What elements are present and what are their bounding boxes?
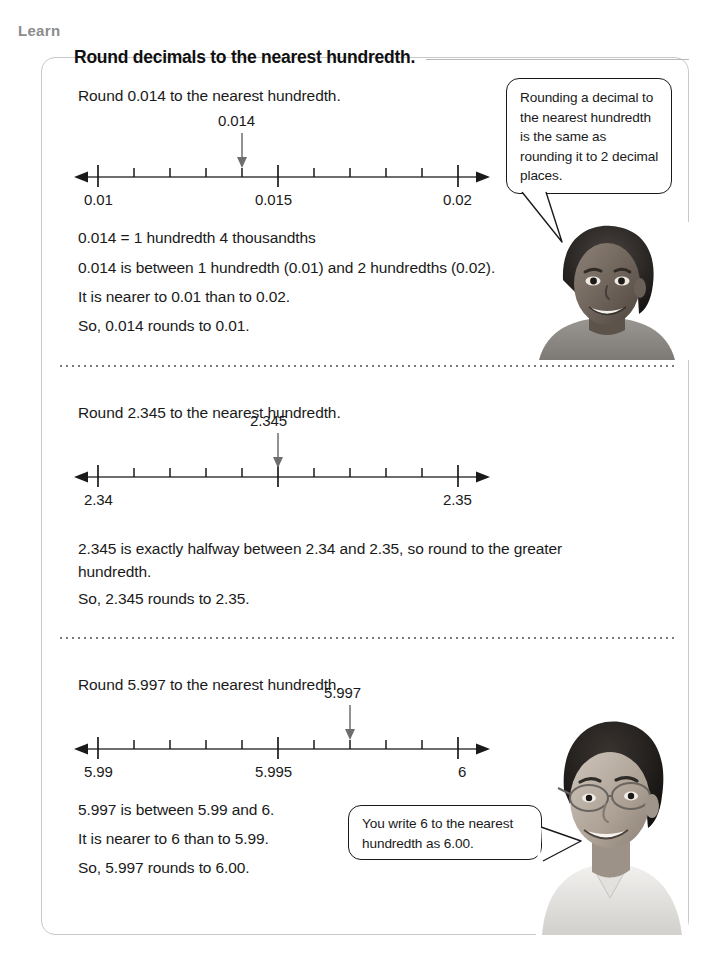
section-3-prompt: Round 5.997 to the nearest hundredth. xyxy=(78,675,341,695)
number-line-3-tick-label-0: 5.99 xyxy=(84,763,113,780)
heading-rule xyxy=(426,59,689,60)
section-3-line-2: So, 5.997 rounds to 6.00. xyxy=(78,858,250,878)
photo-girl xyxy=(525,222,689,360)
number-line-2-tick-label-2: 2.35 xyxy=(443,491,472,508)
section-divider-1 xyxy=(58,365,678,367)
section-1-line-1: 0.014 is between 1 hundredth (0.01) and … xyxy=(78,258,495,278)
number-line-2: 2.345 2.34 2.35 xyxy=(72,455,492,491)
section-3-line-0: 5.997 is between 5.99 and 6. xyxy=(78,800,274,820)
speech-bubble-boy: You write 6 to the nearest hundredth as … xyxy=(348,805,542,860)
section-3-line-1: It is nearer to 6 than to 5.99. xyxy=(78,829,269,849)
number-line-1-tick-label-2: 0.02 xyxy=(443,191,472,208)
number-line-3-tick-label-1: 5.995 xyxy=(255,763,292,780)
page-title: Round decimals to the nearest hundredth. xyxy=(74,47,415,68)
number-line-1-tick-label-0: 0.01 xyxy=(84,191,113,208)
section-1-prompt: Round 0.014 to the nearest hundredth. xyxy=(78,86,341,106)
section-divider-2 xyxy=(58,637,678,639)
number-line-2-marker-label: 2.345 xyxy=(250,412,287,429)
photo-boy xyxy=(536,708,688,935)
number-line-3-tick-label-2: 6 xyxy=(458,763,466,780)
section-2-line-1: So, 2.345 rounds to 2.35. xyxy=(78,589,250,609)
section-1-line-0: 0.014 = 1 hundredth 4 thousandths xyxy=(78,228,316,248)
section-2-prompt: Round 2.345 to the nearest hundredth. xyxy=(78,403,341,423)
learn-tab-label: Learn xyxy=(18,22,60,39)
heading-row: Round decimals to the nearest hundredth. xyxy=(74,44,689,70)
number-line-1-tick-label-1: 0.015 xyxy=(255,191,292,208)
speech-bubble-girl: Rounding a decimal to the nearest hundre… xyxy=(506,78,672,194)
number-line-3-marker-label: 5.997 xyxy=(324,684,361,701)
section-1-line-3: So, 0.014 rounds to 0.01. xyxy=(78,316,250,336)
number-line-3: 5.997 5.99 5.995 6 xyxy=(72,727,492,763)
number-line-1-marker-label: 0.014 xyxy=(218,112,255,129)
section-2-line-0: 2.345 is exactly halfway between 2.34 an… xyxy=(78,537,608,583)
number-line-1: 0.014 0.01 0.015 0.02 xyxy=(72,155,492,191)
number-line-2-tick-label-0: 2.34 xyxy=(84,491,113,508)
section-1-line-2: It is nearer to 0.01 than to 0.02. xyxy=(78,287,290,307)
